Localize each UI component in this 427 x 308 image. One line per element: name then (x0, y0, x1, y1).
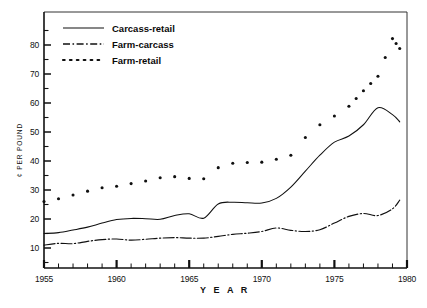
x-axis-title: Y E A R (200, 285, 250, 295)
data-point (376, 75, 379, 78)
y-tick-label: 40 (30, 156, 40, 166)
data-point (188, 177, 191, 180)
data-point (369, 82, 372, 85)
y-tick-label: 20 (30, 214, 40, 224)
data-point (231, 162, 234, 165)
data-point (318, 123, 321, 126)
x-tick-label: 1980 (398, 274, 417, 284)
data-point (57, 197, 60, 200)
data-point (101, 186, 104, 189)
chart-background (0, 0, 427, 308)
data-point (260, 161, 263, 164)
y-tick-label: 30 (30, 185, 40, 195)
data-point (42, 200, 45, 203)
y-axis-title: ¢ PER POUND (16, 123, 23, 177)
y-tick-label: 60 (30, 98, 40, 108)
legend-label-carcass-retail: Carcass-retail (112, 23, 175, 34)
chart-canvas: 1020304050607080 19551960196519701975198… (0, 0, 427, 308)
data-point (333, 115, 336, 118)
x-tick-label: 1960 (108, 274, 127, 284)
x-tick-label: 1955 (35, 274, 54, 284)
data-point (130, 182, 133, 185)
y-tick-label: 50 (30, 127, 40, 137)
price-spread-line-chart: 1020304050607080 19551960196519701975198… (0, 0, 427, 308)
y-tick-label: 70 (30, 69, 40, 79)
legend-label-farm-carcass: Farm-carcass (112, 39, 174, 50)
data-point (398, 47, 401, 50)
data-point (144, 179, 147, 182)
data-point (275, 158, 278, 161)
data-point (362, 89, 365, 92)
data-point (355, 97, 358, 100)
data-point (115, 185, 118, 188)
x-tick-label: 1965 (180, 274, 199, 284)
data-point (304, 136, 307, 139)
x-tick-label: 1970 (253, 274, 272, 284)
data-point (347, 105, 350, 108)
y-tick-label: 10 (30, 243, 40, 253)
data-point (246, 161, 249, 164)
legend-label-farm-retail: Farm-retail (112, 55, 161, 66)
data-point (173, 175, 176, 178)
x-tick-label: 1975 (325, 274, 344, 284)
data-point (391, 37, 394, 40)
data-point (71, 193, 74, 196)
data-point (384, 56, 387, 59)
data-point (159, 176, 162, 179)
data-point (289, 154, 292, 157)
y-tick-label: 80 (30, 40, 40, 50)
data-point (217, 166, 220, 169)
data-point (86, 190, 89, 193)
data-point (202, 177, 205, 180)
data-point (395, 42, 398, 45)
